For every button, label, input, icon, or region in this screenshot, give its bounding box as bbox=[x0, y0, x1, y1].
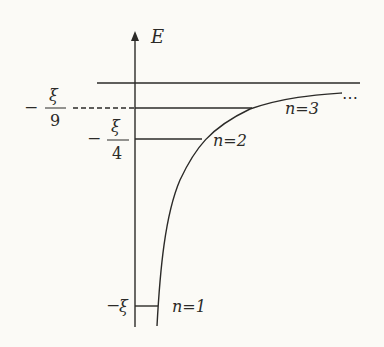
potential-curve bbox=[157, 93, 342, 326]
ellipsis: ⋯ bbox=[342, 88, 358, 107]
level-n3-numerator: ξ bbox=[49, 86, 59, 105]
level-n3-denominator: 9 bbox=[50, 111, 60, 130]
level-n2-label: n=2 bbox=[213, 131, 247, 150]
axis-label-E: E bbox=[150, 26, 164, 47]
level-n2-numerator: ξ bbox=[111, 117, 121, 136]
energy-level-diagram: E − ξ 9 − ξ 4 − ξ n=1 n=2 n=3 ⋯ bbox=[0, 0, 384, 347]
level-n1-value: ξ bbox=[119, 297, 129, 316]
level-n1-label: n=1 bbox=[172, 297, 206, 316]
level-n2-denominator: 4 bbox=[112, 144, 122, 163]
level-n3-sign: − bbox=[24, 97, 38, 117]
axis-arrow-icon bbox=[131, 31, 139, 41]
level-n2-sign: − bbox=[87, 128, 101, 148]
level-n3-label: n=3 bbox=[285, 99, 319, 118]
